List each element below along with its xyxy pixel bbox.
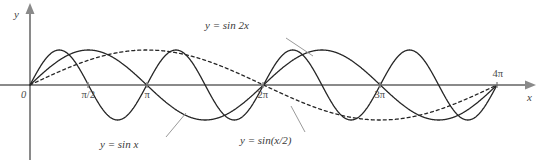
curve-label-sin-x: y = sin x [100,138,138,150]
x-tick-label-0: 0 [21,89,26,100]
x-tick-label-4pi: 4π [493,68,504,79]
leader-lines-group [166,38,313,137]
x-tick-label-2pi: 2π [258,89,269,100]
y-axis-arrowhead [26,3,35,14]
x-tick-label-pi-over-2: π/2 [82,89,95,100]
curve-label-sin-2x: y = sin 2x [205,19,249,31]
sine-curves-figure: y x 0 π/2 π 2π 3π 4π y = sin 2x y = sin … [0,0,537,166]
x-axis-label: x [527,91,532,103]
leader-line-sin-x [166,113,186,137]
x-axis-arrowhead [525,81,536,90]
x-tick-label-pi: π [145,89,150,100]
x-tick-label-3pi: 3π [375,89,386,100]
y-axis-label: y [14,8,19,20]
leader-line-sin-x-over-2 [291,106,305,132]
curve-label-sin-x-over-2: y = sin(x/2) [240,134,291,146]
leader-line-sin-2x [286,38,313,56]
